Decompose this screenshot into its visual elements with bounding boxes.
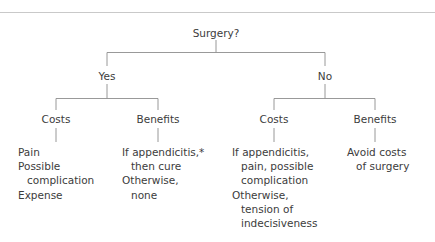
category-label-yes-benefits: Benefits (137, 113, 180, 126)
category-label-no-benefits: Benefits (354, 113, 397, 126)
leaf-list-no-benefits: Avoid costs of surgery (347, 145, 409, 173)
leaf-list-yes-costs: Pain Possible complication Expense (18, 145, 94, 202)
leaf-line: If appendicitis,* (122, 145, 204, 159)
branch-label-no: No (318, 70, 332, 83)
leaf-line: Otherwise, (232, 188, 318, 202)
leaf-line: none (122, 188, 204, 202)
leaf-line: Expense (18, 188, 94, 202)
category-label-no-costs: Costs (260, 113, 289, 126)
leaf-line: Possible (18, 159, 94, 173)
leaf-line: complication (18, 173, 94, 187)
leaf-line: pain, possible (232, 159, 318, 173)
leaf-line: of surgery (347, 159, 409, 173)
leaf-line: indecisiveness (232, 216, 318, 230)
leaf-list-yes-benefits: If appendicitis,* then cure Otherwise, n… (122, 145, 204, 202)
leaf-line: If appendicitis, (232, 145, 318, 159)
category-label-yes-costs: Costs (42, 113, 71, 126)
leaf-line: then cure (122, 159, 204, 173)
root-node-surgery: Surgery? (193, 27, 240, 40)
leaf-line: Avoid costs (347, 145, 409, 159)
leaf-line: Otherwise, (122, 173, 204, 187)
leaf-line: Pain (18, 145, 94, 159)
leaf-line: complication (232, 173, 318, 187)
decision-tree-figure: Surgery? Yes No Costs Benefits Costs Ben… (0, 0, 435, 242)
leaf-list-no-costs: If appendicitis, pain, possible complica… (232, 145, 318, 230)
branch-label-yes: Yes (99, 70, 116, 83)
leaf-line: tension of (232, 202, 318, 216)
